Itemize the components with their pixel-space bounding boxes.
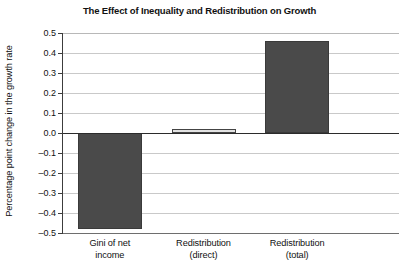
x-axis-tick-label-line: Redistribution bbox=[250, 238, 344, 250]
y-axis-tick-label: –0.2 bbox=[38, 168, 56, 178]
gridline bbox=[63, 233, 399, 234]
gridline bbox=[63, 93, 399, 94]
zero-line bbox=[63, 133, 399, 134]
gridline bbox=[63, 73, 399, 74]
y-axis-tick-label: 0.5 bbox=[43, 28, 56, 38]
y-axis-tick-label: 0.1 bbox=[43, 108, 56, 118]
y-axis-tick-mark bbox=[58, 213, 63, 214]
x-axis-tick-label-line: income bbox=[63, 250, 157, 262]
y-axis-tick-label: 0.3 bbox=[43, 68, 56, 78]
gridline bbox=[63, 113, 399, 114]
y-axis-tick-label: –0.5 bbox=[38, 228, 56, 238]
x-axis-tick-label-line: (direct) bbox=[157, 250, 251, 262]
bar bbox=[78, 133, 142, 229]
bar-chart: The Effect of Inequality and Redistribut… bbox=[0, 0, 399, 280]
x-axis-tick-label: Redistribution(direct) bbox=[157, 238, 251, 261]
x-axis-tick-label-line: (total) bbox=[250, 250, 344, 262]
x-axis-tick-label-line: Redistribution bbox=[157, 238, 251, 250]
chart-title: The Effect of Inequality and Redistribut… bbox=[0, 5, 399, 16]
bar bbox=[265, 41, 329, 133]
y-axis-tick-label: –0.1 bbox=[38, 148, 56, 158]
y-axis-title-text: Percentage point change in the growth ra… bbox=[4, 45, 14, 217]
y-axis-tick-label: 0.4 bbox=[43, 48, 56, 58]
y-axis-tick-mark bbox=[58, 73, 63, 74]
y-axis-tick-label: –0.4 bbox=[38, 208, 56, 218]
x-axis-tick-label: Gini of netincome bbox=[63, 238, 157, 261]
y-axis-title: Percentage point change in the growth ra… bbox=[0, 28, 18, 233]
y-axis-tick-mark bbox=[58, 33, 63, 34]
y-axis-tick-mark bbox=[58, 153, 63, 154]
y-axis-tick-label: –0.3 bbox=[38, 188, 56, 198]
x-axis-tick-label: Redistribution(total) bbox=[250, 238, 344, 261]
y-axis-tick-mark bbox=[58, 113, 63, 114]
y-axis-tick-mark bbox=[58, 53, 63, 54]
x-axis-tick-label-line: Gini of net bbox=[63, 238, 157, 250]
plot-area: 0.50.40.30.20.10.0–0.1–0.2–0.3–0.4–0.5 bbox=[63, 33, 344, 233]
y-axis-tick-label: 0.2 bbox=[43, 88, 56, 98]
gridline bbox=[63, 33, 399, 34]
y-axis-tick-mark bbox=[58, 193, 63, 194]
y-axis-tick-mark bbox=[58, 173, 63, 174]
y-axis-tick-mark bbox=[58, 93, 63, 94]
y-axis-tick-mark bbox=[58, 233, 63, 234]
y-axis-tick-label: 0.0 bbox=[43, 128, 56, 138]
gridline bbox=[63, 53, 399, 54]
